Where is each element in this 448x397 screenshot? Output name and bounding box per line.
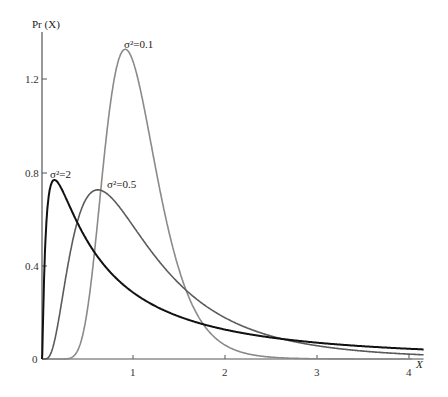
- chart-canvas: 1.2 0.8 0.4 0 1 2 3 4 Pr (X) X σ²=0.1 σ²…: [0, 0, 448, 397]
- y-axis-title: Pr (X): [32, 18, 60, 31]
- curve-sigma2-0.5: [42, 190, 424, 359]
- y-tick-label-0.4: 0.4: [25, 260, 39, 272]
- origin-label: 0: [32, 353, 38, 365]
- x-tick-label-2: 2: [222, 366, 228, 378]
- annotation-sigma2-0.1: σ²=0.1: [124, 38, 153, 50]
- y-tick-label-0.8: 0.8: [25, 167, 39, 179]
- x-tick-label-3: 3: [314, 366, 320, 378]
- x-tick-label-4: 4: [406, 366, 412, 378]
- annotation-sigma2-0.5: σ²=0.5: [107, 178, 137, 190]
- x-tick-label-1: 1: [130, 366, 136, 378]
- annotation-sigma2-2: σ²=2: [50, 168, 71, 180]
- y-tick-label-1.2: 1.2: [25, 73, 39, 85]
- curve-sigma2-0.1: [42, 49, 424, 359]
